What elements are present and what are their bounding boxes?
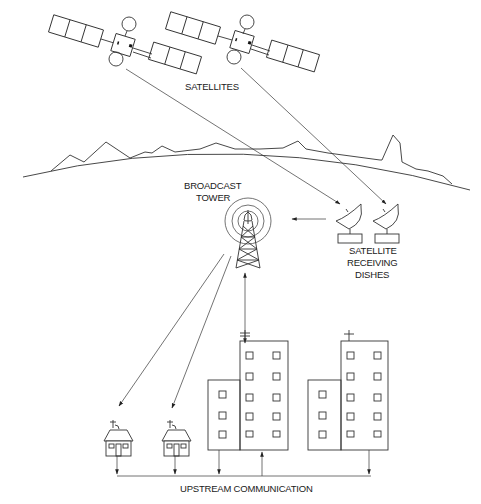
satellite-dish-1 [336, 204, 362, 243]
upstream-communication-label: UPSTREAM COMMUNICATION [180, 483, 313, 494]
tower-icon [236, 210, 260, 268]
earth-horizon [23, 154, 470, 190]
dishes-label-1: SATELLITE [349, 245, 397, 256]
solar-panel-left-icon [166, 12, 221, 44]
tower-to-house-2-arrow [172, 256, 231, 408]
broadcast-tower [225, 198, 271, 268]
satellite-dish-2 [373, 204, 399, 243]
broadcast-tower-label-1: BROADCAST [184, 180, 242, 191]
satellite-body-icon [111, 33, 135, 56]
broadcast-tower-label-2: TOWER [196, 192, 231, 203]
downlink-arrow-2 [241, 68, 386, 204]
dish-base-icon [375, 234, 399, 243]
dish-base-icon [338, 234, 362, 243]
solar-panel-right-icon [266, 40, 319, 72]
dish-reflector-icon [336, 204, 362, 229]
satellite-2 [166, 12, 320, 72]
antenna-dish-bottom-icon [109, 52, 123, 66]
mountain-range [51, 135, 452, 184]
solar-panel-left-icon [49, 15, 104, 47]
house-1 [104, 420, 133, 456]
dishes-label-3: DISHES [355, 269, 389, 280]
antenna-dish-bottom-icon [227, 50, 241, 64]
windows [219, 352, 280, 438]
apartment-building-2 [308, 330, 388, 450]
antenna-dish-top-icon [122, 17, 136, 31]
upstream-network [117, 450, 371, 476]
antenna-dish-top-icon [240, 15, 254, 29]
apartment-building-1 [208, 330, 288, 450]
satellites-label: SATELLITES [185, 81, 239, 92]
satellite-1 [49, 15, 202, 74]
solar-panel-right-icon [148, 42, 201, 74]
dish-reflector-icon [373, 204, 399, 229]
dishes-label-2: RECEIVING [347, 257, 397, 268]
network-diagram: SATELLITES BROADCAST TOWER [0, 0, 481, 504]
house-2 [162, 420, 191, 456]
windows [319, 352, 381, 438]
